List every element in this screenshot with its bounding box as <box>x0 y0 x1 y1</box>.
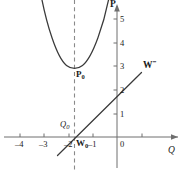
x-axis-label: Q <box>168 146 175 156</box>
y-tick-label-4: 4 <box>120 39 124 48</box>
y-tick-label-5: 5 <box>120 15 124 24</box>
vertex-label-p0: P0 <box>76 70 85 81</box>
x-axis-arrow <box>171 134 178 140</box>
x-tick-label--3: –3 <box>39 140 48 149</box>
parabola-curve <box>42 0 109 68</box>
line-label-w-main: W <box>143 60 153 70</box>
line-label-w-prime: ‴ <box>153 59 156 67</box>
dashed-label-q0-sub: 0 <box>66 123 69 130</box>
root-label-w0-sub: 0 <box>85 142 88 149</box>
x-tick-label-0: 0 <box>120 140 124 149</box>
vertex-label-p0-sub: 0 <box>82 73 85 80</box>
root-label-w0-main: W <box>76 138 85 148</box>
line-label-w-triple-prime: W‴ <box>143 60 156 71</box>
x-tick-marks <box>20 134 142 138</box>
x-tick-label--1: –1 <box>88 140 97 149</box>
y-axis-label: P <box>110 0 116 10</box>
y-tick-label-2: 2 <box>120 86 124 95</box>
y-tick-label-1: 1 <box>120 110 124 119</box>
dashed-label-q0: Q0 <box>60 120 69 131</box>
x-tick-label--4: –4 <box>15 140 24 149</box>
x-tick-label--2: –2 <box>64 140 73 149</box>
root-label-w0: W0 <box>76 139 88 150</box>
y-tick-label-3: 3 <box>120 62 124 71</box>
